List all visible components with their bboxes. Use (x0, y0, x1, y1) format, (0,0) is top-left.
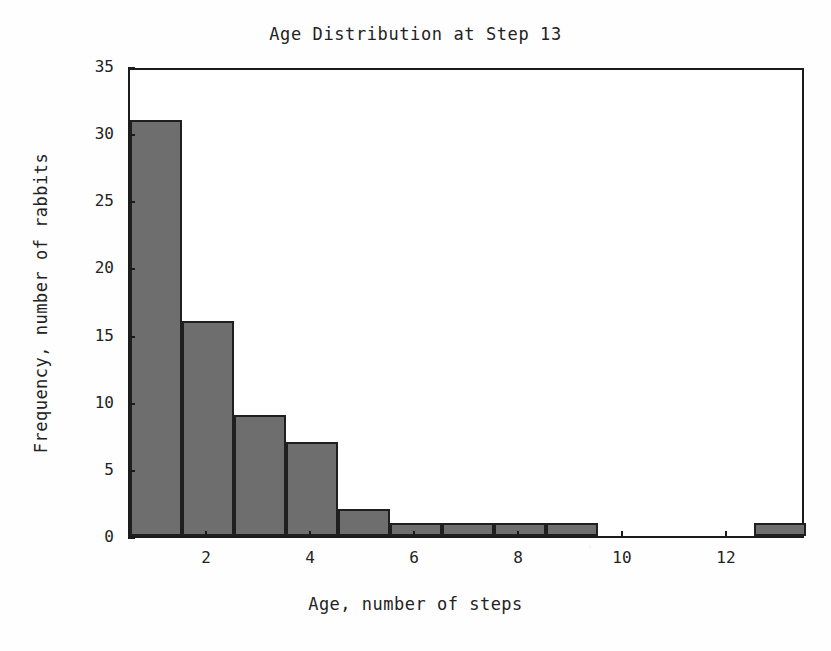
x-tick-mark (205, 531, 207, 538)
x-tick-mark (309, 531, 311, 538)
y-tick-label: 20 (50, 258, 114, 277)
histogram-bar (754, 523, 806, 536)
x-tick-mark (725, 531, 727, 538)
y-tick-label: 35 (50, 57, 114, 76)
x-tick-mark (517, 531, 519, 538)
y-tick-mark (128, 537, 135, 539)
plot-area (128, 68, 804, 538)
x-tick-label: 12 (696, 548, 756, 567)
y-tick-label: 25 (50, 191, 114, 210)
x-tick-label: 4 (280, 548, 340, 567)
y-axis-label: Frequency, number of rabbits (24, 68, 58, 538)
y-tick-mark (128, 201, 135, 203)
y-tick-label: 5 (50, 460, 114, 479)
x-tick-label: 2 (176, 548, 236, 567)
histogram-bar (546, 523, 598, 536)
histogram-bar (130, 120, 182, 536)
x-tick-label: 6 (384, 548, 444, 567)
histogram-bars (130, 70, 802, 536)
histogram-bar (234, 415, 286, 536)
y-tick-label: 0 (50, 527, 114, 546)
histogram-bar (286, 442, 338, 536)
x-tick-label: 8 (488, 548, 548, 567)
y-tick-mark (128, 268, 135, 270)
y-tick-mark (128, 67, 135, 69)
y-tick-label: 10 (50, 393, 114, 412)
chart-title: Age Distribution at Step 13 (0, 24, 831, 44)
y-tick-label: 30 (50, 124, 114, 143)
y-tick-mark (128, 336, 135, 338)
y-tick-mark (128, 470, 135, 472)
x-tick-mark (413, 531, 415, 538)
y-tick-mark (128, 403, 135, 405)
histogram-bar (442, 523, 494, 536)
histogram-bar (494, 523, 546, 536)
x-tick-mark (621, 531, 623, 538)
x-axis-label: Age, number of steps (0, 594, 831, 614)
y-tick-label: 15 (50, 326, 114, 345)
y-tick-mark (128, 134, 135, 136)
histogram-bar (390, 523, 442, 536)
histogram-bar (182, 321, 234, 536)
x-tick-label: 10 (592, 548, 652, 567)
chart-figure: Age Distribution at Step 13 051015202530… (0, 0, 831, 651)
histogram-bar (338, 509, 390, 536)
